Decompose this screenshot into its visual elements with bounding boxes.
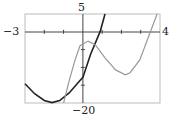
axis-ticks	[44, 30, 140, 85]
x-min-label: −3	[3, 26, 19, 37]
parabola-curve	[25, 14, 105, 103]
y-min-label: −20	[72, 105, 95, 116]
plot	[0, 0, 176, 118]
y-max-label: 5	[78, 2, 85, 13]
x-max-label: 4	[162, 26, 169, 37]
cubic-curve	[64, 14, 158, 103]
